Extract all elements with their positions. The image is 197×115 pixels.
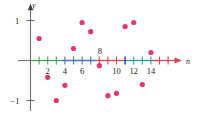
data-point [123, 24, 128, 29]
x-tick-label-14: 14 [147, 66, 156, 76]
data-point [131, 20, 136, 25]
y-tick-label-1: 1 [15, 16, 19, 26]
data-point [45, 75, 50, 80]
data-point [105, 93, 110, 98]
plot-canvas: y n 1 −1 2 4 6 8 10 12 14 [0, 0, 197, 115]
x-tick-label-2: 2 [46, 66, 50, 76]
scatter-plot-figure: y n 1 −1 2 4 6 8 10 12 14 [0, 0, 197, 115]
data-point [37, 36, 42, 41]
data-point [97, 63, 102, 68]
x-axis-arrowhead [175, 58, 183, 64]
x-tick-label-4: 4 [63, 66, 68, 76]
data-point-series [37, 20, 154, 103]
x-tick-label-12: 12 [129, 66, 138, 76]
data-point [71, 46, 76, 51]
x-tick-label-8: 8 [98, 46, 102, 56]
y-axis-title: y [31, 1, 36, 10]
data-point [140, 82, 145, 87]
data-point [148, 50, 153, 55]
data-point [62, 83, 67, 88]
y-axis [27, 4, 35, 112]
x-axis [18, 58, 182, 64]
x-tick-label-10: 10 [112, 66, 121, 76]
data-point [80, 20, 85, 25]
data-point [88, 29, 93, 34]
data-point [114, 91, 119, 96]
data-point [54, 98, 59, 103]
x-tick-label-6: 6 [80, 66, 84, 76]
x-axis-title: n [186, 57, 190, 66]
y-tick-label-neg1: −1 [10, 96, 19, 106]
